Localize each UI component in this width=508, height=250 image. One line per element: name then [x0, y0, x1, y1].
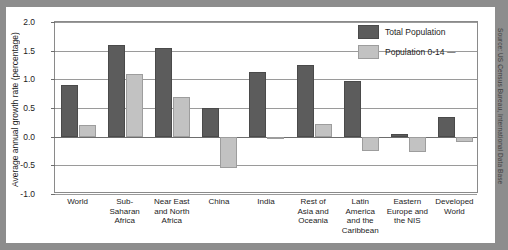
x-axis-category-label: Eastern Europe and the NIS: [384, 197, 431, 226]
bar-population-0-14: [315, 124, 332, 137]
y-axis-tick-label: -0.5: [0, 160, 35, 170]
bar-population-0-14: [173, 97, 190, 137]
bar-group: [55, 22, 102, 192]
bar-group: [243, 22, 290, 192]
legend-item-population-0-14: Population 0-14 —: [358, 43, 483, 61]
x-axis-category-label: Near East and North Africa: [148, 197, 195, 226]
legend-label-total-population: Total Population: [385, 27, 446, 37]
chart-figure: Average annual growth rate (percentage) …: [6, 7, 495, 243]
bar-population-0-14: [456, 137, 473, 143]
bar-total-population: [249, 72, 266, 137]
bar-total-population: [155, 48, 172, 137]
bar-population-0-14: [220, 137, 237, 169]
bar-total-population: [61, 85, 78, 137]
bar-population-0-14: [409, 137, 426, 152]
bar-total-population: [438, 117, 455, 137]
bar-total-population: [108, 45, 125, 137]
x-axis-category-label: Rest of Asia and Oceania: [290, 197, 337, 226]
y-axis-tick-label: -1.0: [0, 189, 35, 199]
bar-population-0-14: [126, 74, 143, 137]
bar-total-population: [391, 134, 408, 137]
bar-total-population: [297, 65, 314, 137]
x-axis-category-label: World: [54, 197, 101, 207]
x-axis-categories: WorldSub- Saharan AfricaNear East and No…: [54, 193, 478, 241]
legend-swatch-total-population: [358, 25, 379, 39]
y-axis-tick-label: 1.0: [0, 74, 35, 84]
legend-label-population-0-14: Population 0-14 —: [385, 47, 455, 57]
x-axis-category-label: China: [195, 197, 242, 207]
bar-population-0-14: [362, 137, 379, 151]
chart-legend: Total Population Population 0-14 —: [358, 23, 483, 63]
legend-swatch-population-0-14: [358, 45, 379, 59]
x-axis-category-label: India: [242, 197, 289, 207]
y-axis-tick-label: 1.5: [0, 46, 35, 56]
x-axis-category-label: Developed World: [431, 197, 478, 216]
legend-item-total-population: Total Population: [358, 23, 483, 41]
bar-total-population: [344, 81, 361, 137]
bar-population-0-14: [79, 125, 96, 136]
y-axis-tick-label: 0.5: [0, 103, 35, 113]
x-axis-category-label: Sub- Saharan Africa: [101, 197, 148, 226]
source-credit: Source: US Census Bureau, International …: [494, 28, 507, 228]
y-axis-tick-label: 2.0: [0, 17, 35, 27]
bar-group: [102, 22, 149, 192]
bar-group: [149, 22, 196, 192]
bar-group: [291, 22, 338, 192]
x-axis-category-label: Latin America and the Caribbean: [337, 197, 384, 235]
bar-total-population: [202, 108, 219, 137]
bar-population-0-14: [267, 137, 284, 139]
y-axis-tick-label: 0.0: [0, 132, 35, 142]
bar-group: [196, 22, 243, 192]
